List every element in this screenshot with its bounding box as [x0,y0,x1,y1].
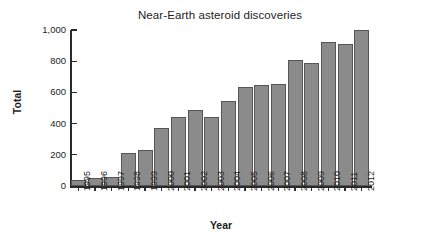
x-tick-mark [94,187,95,191]
y-tick-label: 800 [22,55,66,66]
x-tick-mark [311,187,312,191]
x-tick-label-1996: 1996 [99,157,109,191]
x-tick-label-2012: 2012 [366,157,376,191]
x-tick-mark [328,187,329,191]
x-tick-label-2008: 2008 [299,157,309,191]
y-tick-label: 400 [22,118,66,129]
x-tick-label-2009: 2009 [316,157,326,191]
x-tick-mark [144,187,145,191]
x-tick-label-2000: 2000 [166,157,176,191]
chart-title: Near-Earth asteroid discoveries [70,9,370,21]
y-tick-label: 0 [22,180,66,191]
x-tick-label-2001: 2001 [182,157,192,191]
y-tick-label-text: 600 [26,86,66,97]
x-tick-label-2005: 2005 [249,157,259,191]
y-tick-label-text: 0 [26,180,66,191]
x-tick-mark [344,187,345,191]
x-tick-mark [261,187,262,191]
y-tick-label: 600 [22,86,66,97]
x-tick-mark [128,187,129,191]
x-tick-mark [294,187,295,191]
x-tick-mark [111,187,112,191]
x-tick-label-1999: 1999 [149,157,159,191]
y-tick-label: 200 [22,149,66,160]
y-tick-label-text: 1,000 [26,24,66,35]
x-tick-label-2010: 2010 [332,157,342,191]
y-tick-label-text: 400 [26,118,66,129]
x-axis-title: Year [70,219,372,231]
y-tick-label-text: 800 [26,55,66,66]
x-tick-mark [228,187,229,191]
x-tick-label-1997: 1997 [116,157,126,191]
x-tick-label-2011: 2011 [349,157,359,191]
x-tick-label-2006: 2006 [266,157,276,191]
x-tick-label-2004: 2004 [232,157,242,191]
y-tick-label: 1,000 [22,24,66,35]
x-tick-mark [178,187,179,191]
x-tick-mark [361,187,362,191]
x-tick-label-2007: 2007 [282,157,292,191]
x-tick-label-2002: 2002 [199,157,209,191]
x-tick-label-2003: 2003 [216,157,226,191]
x-tick-mark [211,187,212,191]
x-tick-mark [78,187,79,191]
x-tick-label-1998: 1998 [132,157,142,191]
y-tick-label-text: 200 [26,149,66,160]
x-tick-mark [194,187,195,191]
x-tick-mark [278,187,279,191]
x-tick-label-1995: 1995 [82,157,92,191]
x-tick-mark [161,187,162,191]
chart-figure: Near-Earth asteroid discoveries Total Ye… [0,0,435,234]
x-tick-mark [244,187,245,191]
